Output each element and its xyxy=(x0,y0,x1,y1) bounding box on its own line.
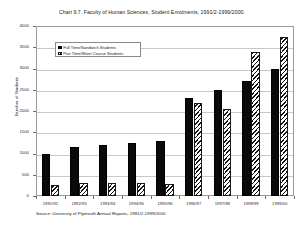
source-note: Source: University of Plymouth Annual Re… xyxy=(36,211,165,216)
y-tick-label: 3000 xyxy=(19,65,29,70)
x-tick-label: 1997/98 xyxy=(215,201,230,206)
bar xyxy=(271,69,280,197)
y-tick-label: 1000 xyxy=(19,150,29,155)
y-tick-label: 3500 xyxy=(19,44,29,49)
bar xyxy=(42,154,51,197)
bar xyxy=(99,145,108,196)
y-tick-label: 500 xyxy=(22,172,29,177)
bar xyxy=(108,183,117,196)
x-tick-mark xyxy=(151,196,152,199)
x-tick-mark xyxy=(265,196,266,199)
chart-figure: Chart 9.7. Faculty of Human Sciences, St… xyxy=(0,0,304,228)
bar xyxy=(185,98,194,196)
x-tick-mark xyxy=(294,196,295,199)
y-axis-ticks: 40003500300025002000150010005000 xyxy=(0,26,36,196)
bar xyxy=(242,81,251,196)
bar xyxy=(79,183,88,196)
x-tick-mark xyxy=(36,196,37,199)
y-tick-label: 2500 xyxy=(19,87,29,92)
bar xyxy=(70,147,79,196)
legend-item: Full Time/Sandwich Students xyxy=(58,45,138,51)
x-tick-mark xyxy=(179,196,180,199)
x-axis-ticks: 1991/921992/931993/941994/951995/961996/… xyxy=(36,196,294,210)
y-tick-label: 2000 xyxy=(19,108,29,113)
bar xyxy=(251,52,260,197)
bar xyxy=(165,184,174,196)
bar xyxy=(51,185,60,196)
x-tick-label: 1996/97 xyxy=(186,201,201,206)
bar xyxy=(194,103,203,197)
y-tick-label: 4000 xyxy=(19,23,29,28)
bar xyxy=(223,109,232,196)
x-tick-label: 1991/92 xyxy=(43,201,58,206)
bar xyxy=(156,141,165,196)
chart-title: Chart 9.7. Faculty of Human Sciences, St… xyxy=(0,9,304,15)
x-tick-label: 1994/95 xyxy=(129,201,144,206)
x-tick-mark xyxy=(93,196,94,199)
x-tick-label: 1999/00 xyxy=(272,201,287,206)
legend-swatch-icon xyxy=(58,46,62,50)
bar xyxy=(214,90,223,196)
bar xyxy=(280,37,289,196)
x-tick-mark xyxy=(122,196,123,199)
x-tick-label: 1998/99 xyxy=(243,201,258,206)
legend-swatch-icon xyxy=(58,52,62,56)
legend-label: Part Time/Short Course Students xyxy=(63,51,123,57)
x-tick-label: 1993/94 xyxy=(100,201,115,206)
chart-legend: Full Time/Sandwich StudentsPart Time/Sho… xyxy=(55,42,141,57)
x-tick-mark xyxy=(208,196,209,199)
y-tick-label: 1500 xyxy=(19,129,29,134)
legend-label: Full Time/Sandwich Students xyxy=(63,45,116,51)
bar xyxy=(137,183,146,196)
x-tick-mark xyxy=(237,196,238,199)
x-tick-mark xyxy=(65,196,66,199)
x-tick-label: 1995/96 xyxy=(157,201,172,206)
x-tick-label: 1992/93 xyxy=(71,201,86,206)
legend-item: Part Time/Short Course Students xyxy=(58,51,138,57)
bar xyxy=(128,143,137,196)
y-tick-label: 0 xyxy=(27,193,29,198)
